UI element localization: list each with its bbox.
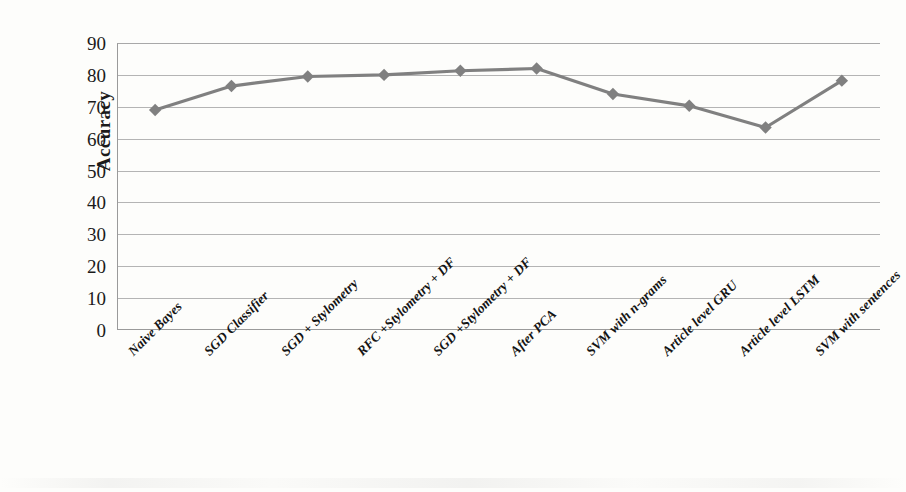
data-point-6 [607, 88, 619, 100]
y-tick-60: 60 [60, 130, 106, 149]
series-line [155, 69, 842, 128]
data-point-3 [378, 69, 390, 81]
accuracy-line-chart: Accuracy 9080706050403020100 Naive Bayes… [0, 0, 906, 492]
y-tick-50: 50 [60, 162, 106, 181]
y-axis-tick-labels: 9080706050403020100 [48, 0, 106, 492]
y-tick-20: 20 [60, 257, 106, 276]
data-point-4 [454, 65, 466, 77]
data-point-1 [225, 80, 237, 92]
x-axis-tick-labels: Naive BayesSGD ClassifierSGD + Stylometr… [117, 330, 880, 490]
y-tick-90: 90 [60, 34, 106, 53]
y-tick-0: 0 [60, 321, 106, 340]
y-tick-40: 40 [60, 193, 106, 212]
y-tick-80: 80 [60, 66, 106, 85]
data-point-0 [149, 104, 161, 116]
y-tick-10: 10 [60, 289, 106, 308]
y-tick-70: 70 [60, 98, 106, 117]
data-point-5 [530, 62, 542, 74]
data-point-7 [683, 100, 695, 112]
data-point-2 [302, 70, 314, 82]
scan-artifact-edge [0, 478, 906, 488]
y-tick-30: 30 [60, 225, 106, 244]
